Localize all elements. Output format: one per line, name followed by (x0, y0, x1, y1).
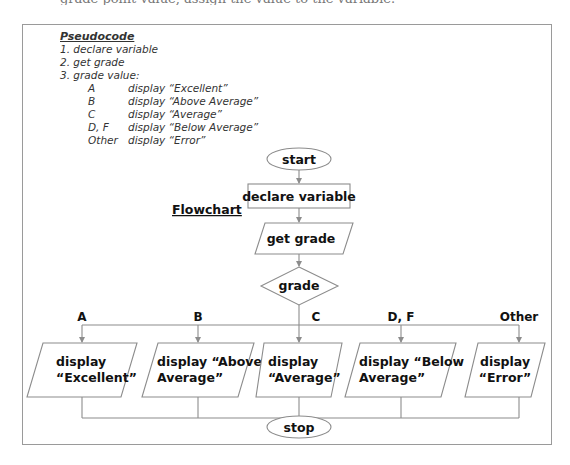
flowchart-diagram: Flowchart start declare variable get gra… (0, 0, 570, 465)
output-average-line2: “Average” (268, 370, 341, 385)
grade-decision-label: grade (279, 278, 320, 293)
branch-label-a: A (77, 310, 87, 324)
output-above-average-line2: Average” (157, 370, 223, 385)
output-excellent-line1: display (56, 354, 106, 369)
branch-label-df: D, F (388, 310, 415, 324)
get-grade-label: get grade (267, 231, 336, 246)
branch-label-c: C (312, 310, 321, 324)
flowchart-heading: Flowchart (172, 202, 242, 217)
output-error-line1: display (480, 354, 530, 369)
start-label: start (282, 152, 316, 167)
output-below-average-line2: Average” (359, 370, 425, 385)
output-excellent-line2: “Excellent” (56, 370, 137, 385)
output-average-line1: display (268, 354, 318, 369)
declare-variable-label: declare variable (242, 189, 356, 204)
stop-label: stop (284, 420, 315, 435)
output-above-average-line1: display “Above (157, 354, 262, 369)
branch-label-b: B (193, 310, 202, 324)
output-below-average-line1: display “Below (359, 354, 465, 369)
branch-label-other: Other (500, 310, 539, 324)
output-error-line2: “Error” (479, 370, 531, 385)
